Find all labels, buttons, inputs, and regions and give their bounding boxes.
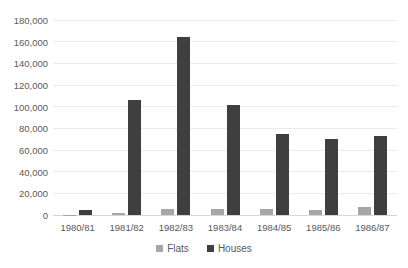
y-axis-label: 100,000 xyxy=(14,101,48,112)
x-axis-label: 1980/81 xyxy=(60,222,94,233)
bar-flats-1984-85 xyxy=(260,209,273,216)
flats-swatch-icon xyxy=(156,245,163,252)
gridline xyxy=(53,171,397,172)
gridline xyxy=(53,41,397,42)
legend-label-houses: Houses xyxy=(218,243,252,254)
legend-item-flats: Flats xyxy=(156,243,189,254)
bar-houses-1980-81 xyxy=(79,210,92,215)
x-axis-label: 1982/83 xyxy=(159,222,193,233)
gridline xyxy=(53,128,397,129)
bar-chart: 020,00040,00060,00080,000100,000120,0001… xyxy=(0,0,408,268)
y-axis-label: 140,000 xyxy=(14,58,48,69)
bar-houses-1984-85 xyxy=(276,134,289,215)
bar-houses-1981-82 xyxy=(128,100,141,215)
plot-area xyxy=(53,20,397,216)
bar-houses-1985-86 xyxy=(325,139,338,215)
y-axis-label: 60,000 xyxy=(19,145,48,156)
y-axis-label: 120,000 xyxy=(14,80,48,91)
gridline xyxy=(53,193,397,194)
y-axis-label: 180,000 xyxy=(14,15,48,26)
gridline xyxy=(53,63,397,64)
bar-flats-1983-84 xyxy=(211,209,224,215)
x-axis-label: 1984/85 xyxy=(257,222,291,233)
y-axis-label: 40,000 xyxy=(19,166,48,177)
houses-swatch-icon xyxy=(207,245,214,252)
bar-flats-1982-83 xyxy=(161,209,174,216)
bar-houses-1982-83 xyxy=(177,37,190,215)
legend-item-houses: Houses xyxy=(207,243,252,254)
x-axis-label: 1981/82 xyxy=(110,222,144,233)
bar-flats-1986-87 xyxy=(358,207,371,215)
gridline xyxy=(53,85,397,86)
gridline xyxy=(53,20,397,21)
gridline xyxy=(53,150,397,151)
y-axis-label: 160,000 xyxy=(14,36,48,47)
bar-houses-1983-84 xyxy=(227,105,240,216)
bar-flats-1985-86 xyxy=(309,210,322,215)
x-axis-label: 1985/86 xyxy=(306,222,340,233)
x-axis-label: 1986/87 xyxy=(355,222,389,233)
legend-label-flats: Flats xyxy=(167,243,189,254)
y-axis-label: 20,000 xyxy=(19,188,48,199)
y-axis-label: 80,000 xyxy=(19,123,48,134)
bar-flats-1981-82 xyxy=(112,213,125,215)
gridline xyxy=(53,106,397,107)
y-axis-label: 0 xyxy=(43,210,48,221)
legend: Flats Houses xyxy=(0,243,408,254)
bar-houses-1986-87 xyxy=(374,136,387,215)
x-axis-label: 1983/84 xyxy=(208,222,242,233)
